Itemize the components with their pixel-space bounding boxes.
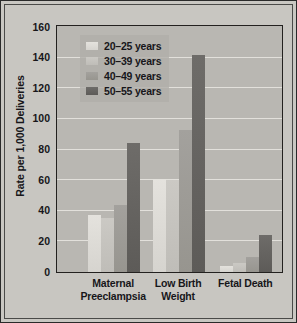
y-tick-label: 0 [44,266,50,278]
x-axis-category-labels: MaternalPreeclampsiaLow BirthWeightFetal… [56,277,283,317]
bar[interactable] [166,180,179,272]
legend-item[interactable]: 30–39 years [86,55,161,67]
y-axis-title-text: Rate per 1,000 Deliveries [14,75,26,196]
y-tick-label: 100 [32,112,50,124]
bar[interactable] [114,205,127,272]
legend-swatch-icon [86,72,98,80]
legend-label: 40–49 years [104,70,161,82]
x-category-label-line: Fetal Death [197,277,293,290]
bar[interactable] [220,266,233,272]
y-axis-tick-labels: 020406080100120140160 [27,25,53,273]
y-tick-label: 160 [32,21,50,33]
y-tick-label: 80 [38,143,50,155]
y-tick-label: 140 [32,51,50,63]
plot-area: 20–25 years30–39 years40–49 years50–55 y… [56,25,283,273]
y-tick-label: 20 [38,235,50,247]
bar[interactable] [127,143,140,272]
bar[interactable] [101,218,114,272]
legend: 20–25 years30–39 years40–49 years50–55 y… [80,35,169,102]
legend-swatch-icon [86,87,98,95]
legend-item[interactable]: 20–25 years [86,40,161,52]
y-tick-label: 40 [38,204,50,216]
bar[interactable] [88,215,101,272]
legend-item[interactable]: 40–49 years [86,70,161,82]
legend-swatch-icon [86,42,98,50]
bar[interactable] [233,263,246,272]
legend-item[interactable]: 50–55 years [86,85,161,97]
figure: Rate per 1,000 Deliveries 02040608010012… [0,0,297,323]
bar[interactable] [192,55,205,272]
legend-label: 30–39 years [104,55,161,67]
x-category-label: Fetal Death [197,277,293,290]
bar[interactable] [246,257,259,272]
legend-swatch-icon [86,57,98,65]
bar[interactable] [179,130,192,272]
y-tick-label: 60 [38,174,50,186]
legend-label: 50–55 years [104,85,161,97]
legend-label: 20–25 years [104,40,161,52]
bar-group [220,26,272,272]
bar[interactable] [153,179,166,272]
x-category-label-line: Weight [130,290,226,303]
bar[interactable] [259,235,272,272]
y-tick-label: 120 [32,82,50,94]
